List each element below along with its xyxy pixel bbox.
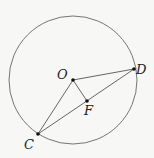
label-C: C bbox=[24, 137, 34, 152]
label-O: O bbox=[57, 67, 68, 82]
label-F: F bbox=[83, 103, 94, 118]
segment-OF bbox=[73, 80, 87, 101]
point-O bbox=[71, 78, 75, 82]
geometry-diagram: O D F C bbox=[0, 0, 154, 158]
segment-OC bbox=[38, 80, 73, 134]
segment-OD bbox=[73, 69, 134, 80]
point-C bbox=[36, 132, 40, 136]
label-D: D bbox=[135, 62, 147, 77]
